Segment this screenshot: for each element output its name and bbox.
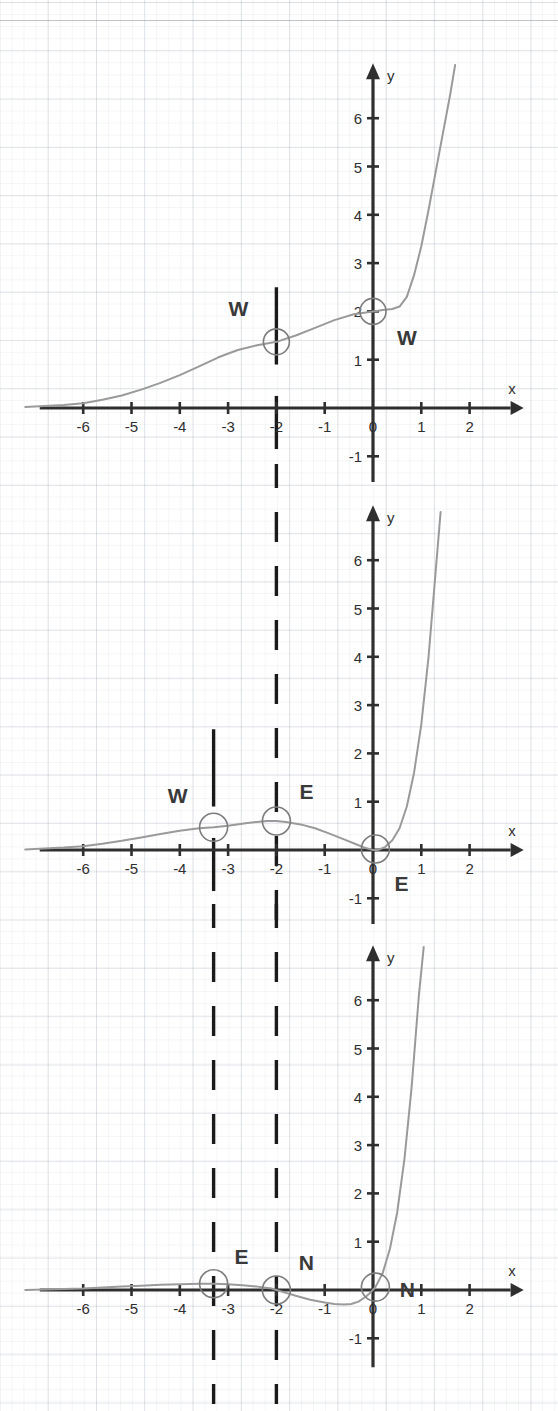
chart-panel-2[interactable]: -6-5-4-3-2-1012-1123456xyWEE: [0, 464, 558, 924]
x-tick-label: -4: [173, 860, 186, 877]
y-tick-label: 2: [354, 745, 362, 762]
chart-panel-3[interactable]: -6-5-4-3-2-1012-1123456xyENN: [0, 904, 558, 1404]
chart-panel-1[interactable]: -6-5-4-3-2-1012-1123456xyWW: [0, 22, 558, 482]
x-tick-label: 2: [465, 418, 473, 435]
annotation-label-E: E: [394, 872, 408, 895]
x-tick-label: -6: [77, 1300, 90, 1317]
x-tick-label: 0: [369, 1300, 377, 1317]
annotation-label-N: N: [400, 1278, 415, 1301]
x-tick-label: -6: [77, 418, 90, 435]
annotation-label-W: W: [168, 784, 188, 807]
cropped-header-text: [0, 0, 558, 14]
annotation-label-E: E: [299, 780, 313, 803]
y-tick-label: 4: [354, 207, 362, 224]
annotation-label-W: W: [228, 297, 248, 320]
y-axis-arrow-icon: [366, 945, 380, 961]
scan-separator-line-top: [0, 20, 558, 21]
data-curve-curve-2: [25, 512, 440, 850]
y-axis-label: y: [387, 949, 395, 966]
y-tick-label: 1: [354, 352, 362, 369]
y-tick-label: 6: [354, 552, 362, 569]
x-tick-label: -2: [270, 418, 283, 435]
y-tick-label: -1: [349, 1330, 362, 1347]
y-tick-label: 4: [354, 649, 362, 666]
x-axis-label: x: [508, 822, 516, 839]
x-tick-label: -5: [125, 418, 138, 435]
x-tick-label: -2: [270, 860, 283, 877]
x-tick-label: 2: [465, 1300, 473, 1317]
y-axis-label: y: [387, 67, 395, 84]
panel-3-svg: -6-5-4-3-2-1012-1123456xyENN: [0, 904, 558, 1404]
y-tick-label: 5: [354, 1041, 362, 1058]
y-tick-label: 6: [354, 992, 362, 1009]
y-axis-label: y: [387, 509, 395, 526]
x-axis-label: x: [508, 1262, 516, 1279]
x-tick-label: -4: [173, 1300, 186, 1317]
data-curve-curve-3: [25, 947, 423, 1304]
x-tick-label: -4: [173, 418, 186, 435]
x-tick-label: -5: [125, 860, 138, 877]
y-tick-label: -1: [349, 448, 362, 465]
x-tick-label: 2: [465, 860, 473, 877]
y-tick-label: 4: [354, 1089, 362, 1106]
x-tick-label: -3: [221, 418, 234, 435]
y-tick-label: 2: [354, 1185, 362, 1202]
x-tick-label: -6: [77, 860, 90, 877]
x-tick-label: 0: [369, 418, 377, 435]
annotation-label-N: N: [299, 1251, 314, 1274]
panel-1-svg: -6-5-4-3-2-1012-1123456xyWW: [0, 22, 558, 482]
y-tick-label: 6: [354, 110, 362, 127]
y-tick-label: 3: [354, 697, 362, 714]
y-tick-label: 1: [354, 794, 362, 811]
x-tick-label: -5: [125, 1300, 138, 1317]
y-tick-label: 5: [354, 601, 362, 618]
annotation-label-E: E: [235, 1245, 249, 1268]
x-tick-label: 1: [417, 860, 425, 877]
x-tick-label: -1: [318, 860, 331, 877]
x-axis-arrow-icon: [511, 1283, 524, 1297]
y-tick-label: 3: [354, 255, 362, 272]
x-axis-label: x: [508, 380, 516, 397]
x-tick-label: -1: [318, 418, 331, 435]
annotation-label-W: W: [397, 326, 417, 349]
x-axis-arrow-icon: [511, 843, 524, 857]
y-axis-arrow-icon: [366, 63, 380, 79]
x-axis-arrow-icon: [511, 401, 524, 415]
y-axis-arrow-icon: [366, 505, 380, 521]
y-tick-label: 5: [354, 159, 362, 176]
y-tick-label: 3: [354, 1137, 362, 1154]
x-tick-label: -3: [221, 860, 234, 877]
panel-2-svg: -6-5-4-3-2-1012-1123456xyWEE: [0, 464, 558, 924]
x-tick-label: 1: [417, 1300, 425, 1317]
x-tick-label: 1: [417, 418, 425, 435]
data-curve-curve-1: [25, 65, 455, 407]
x-tick-label: -3: [221, 1300, 234, 1317]
y-tick-label: 1: [354, 1234, 362, 1251]
